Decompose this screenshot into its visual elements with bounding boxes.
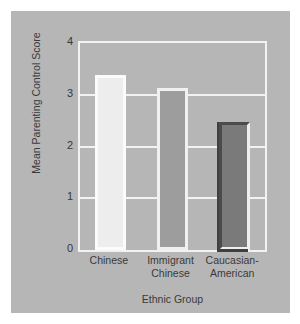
bar-fill: [157, 88, 188, 250]
x-tick-line: Chinese: [75, 254, 143, 267]
x-tick-label: Caucasian-American: [198, 254, 266, 279]
y-tick-label: 0: [67, 243, 73, 254]
y-tick-label: 4: [67, 36, 73, 47]
y-tick-label: 1: [67, 191, 73, 202]
y-tick-label: 2: [67, 140, 73, 151]
x-tick-line: American: [198, 267, 266, 280]
bar-fill: [219, 122, 250, 250]
x-tick-line: Caucasian-: [198, 254, 266, 267]
x-tick-line: Immigrant: [137, 254, 205, 267]
bar-2: [157, 88, 188, 250]
x-tick-label: Chinese: [75, 254, 143, 267]
plot-area: [78, 41, 267, 252]
y-axis-title: Mean Parenting Control Score: [30, 23, 42, 183]
bar-1: [95, 75, 126, 250]
x-tick-line: Chinese: [137, 267, 205, 280]
bar-3: [219, 122, 250, 250]
bar-fill: [95, 75, 126, 250]
x-tick-label: ImmigrantChinese: [137, 254, 205, 279]
x-axis-title: Ethnic Group: [78, 293, 267, 305]
y-tick-label: 3: [67, 88, 73, 99]
chart-panel: 01234 Mean Parenting Control Score Chine…: [11, 11, 290, 313]
figure: 01234 Mean Parenting Control Score Chine…: [0, 0, 300, 324]
x-axis-ticks: ChineseImmigrantChineseCaucasian-America…: [78, 254, 267, 288]
y-axis-ticks: 01234: [55, 41, 73, 248]
